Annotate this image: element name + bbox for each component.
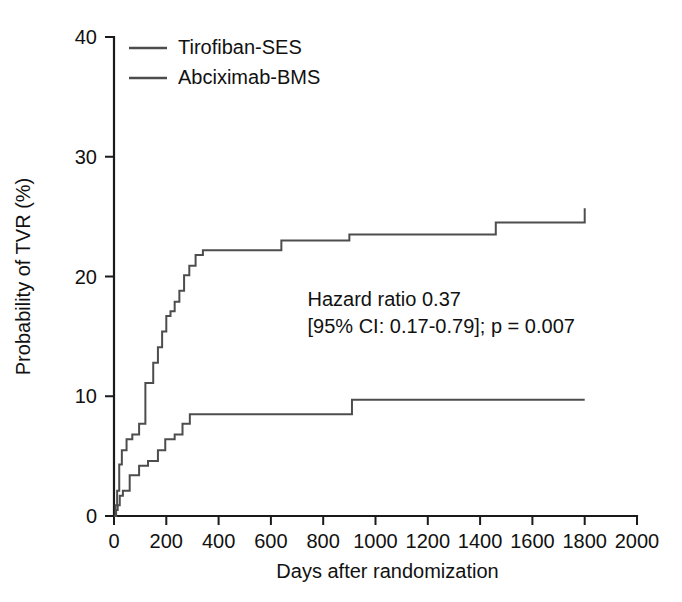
- x-tick-label-1600: 1600: [510, 530, 555, 552]
- series-curve-abciximab-bms: [114, 208, 585, 516]
- x-tick-label-1200: 1200: [406, 530, 451, 552]
- x-axis-title: Days after randomization: [276, 560, 498, 582]
- legend-label-abciximab-bms: Abciximab-BMS: [178, 66, 320, 88]
- y-tick-label-40: 40: [75, 26, 97, 48]
- x-axis-ticks: [114, 516, 637, 525]
- x-tick-label-600: 600: [254, 530, 287, 552]
- y-tick-label-20: 20: [75, 266, 97, 288]
- x-axis-tick-labels: 0200400600800100012001400160018002000: [108, 530, 659, 552]
- x-tick-label-1000: 1000: [353, 530, 398, 552]
- chart-legend: Tirofiban-SESAbciximab-BMS: [129, 36, 320, 88]
- legend-label-tirofiban-ses: Tirofiban-SES: [178, 36, 302, 58]
- x-tick-label-2000: 2000: [615, 530, 660, 552]
- x-tick-label-800: 800: [307, 530, 340, 552]
- series-curve-tirofiban-ses: [114, 400, 585, 516]
- x-tick-label-200: 200: [150, 530, 183, 552]
- y-axis-title: Probability of TVR (%): [12, 178, 34, 375]
- hazard-ratio-annotation: Hazard ratio 0.37[95% CI: 0.17-0.79]; p …: [308, 288, 575, 337]
- annotation-line-2: [95% CI: 0.17-0.79]; p = 0.007: [308, 315, 575, 337]
- chart-canvas: 010203040 020040060080010001200140016001…: [0, 0, 682, 602]
- kaplan-meier-figure: 010203040 020040060080010001200140016001…: [0, 0, 682, 602]
- x-tick-label-1400: 1400: [458, 530, 503, 552]
- y-tick-label-30: 30: [75, 146, 97, 168]
- data-series-group: [114, 208, 585, 516]
- annotation-line-1: Hazard ratio 0.37: [308, 288, 461, 310]
- x-tick-label-400: 400: [202, 530, 235, 552]
- x-tick-label-0: 0: [108, 530, 119, 552]
- y-tick-label-10: 10: [75, 385, 97, 407]
- y-axis-tick-labels: 010203040: [75, 26, 97, 527]
- y-tick-label-0: 0: [86, 505, 97, 527]
- x-tick-label-1800: 1800: [562, 530, 607, 552]
- y-axis-ticks: [105, 37, 114, 516]
